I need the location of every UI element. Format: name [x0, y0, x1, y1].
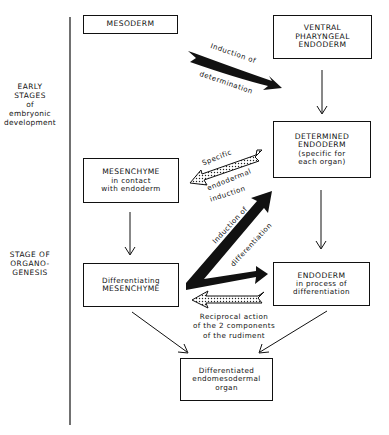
- box-title: MESODERM: [107, 20, 155, 29]
- box-subtitle: organ: [215, 384, 238, 392]
- stage-label-early: EARLY STAGES of embryonic development: [2, 83, 58, 127]
- differentiating-mesenchyme-box: Differentiating MESENCHYME: [83, 263, 179, 307]
- differentiated-organ-box: Differentiated endomesodermal organ: [180, 358, 273, 401]
- endoderm-in-process-box: ENDODERM in process of differentiation: [273, 262, 370, 306]
- flow-line-mesenchyme-to-organ: [132, 312, 187, 352]
- box-subtitle: with endoderm: [101, 185, 161, 193]
- caption-line: of the rudiment: [184, 331, 284, 340]
- reciprocal-action-arrow-icon: [192, 291, 264, 308]
- label-reciprocal-action: Reciprocal action of the 2 components of…: [184, 312, 284, 340]
- box-title: MESENCHYME: [102, 285, 160, 294]
- mesoderm-box: MESODERM: [83, 15, 178, 34]
- diagram-canvas: EARLY STAGES of embryonic development ST…: [0, 0, 389, 435]
- stage-label-organogenesis: STAGE OF ORGANO- GENESIS: [2, 251, 58, 278]
- box-subtitle: differentiation: [293, 288, 350, 296]
- box-title: ENDODERM: [299, 41, 347, 50]
- caption-line: Reciprocal action: [184, 312, 284, 321]
- determined-endoderm-box: DETERMINED ENDODERM (specific for each o…: [273, 121, 371, 178]
- ventral-pharyngeal-endoderm-box: VENTRAL PHARYNGEAL ENDODERM: [273, 15, 372, 59]
- box-subtitle: each organ): [298, 158, 346, 166]
- mesenchyme-in-contact-box: MESENCHYME in contact with endoderm: [83, 158, 179, 203]
- caption-line: of the 2 components: [184, 321, 284, 330]
- stage-label-line: development: [2, 119, 58, 128]
- stage-label-line: GENESIS: [2, 269, 58, 278]
